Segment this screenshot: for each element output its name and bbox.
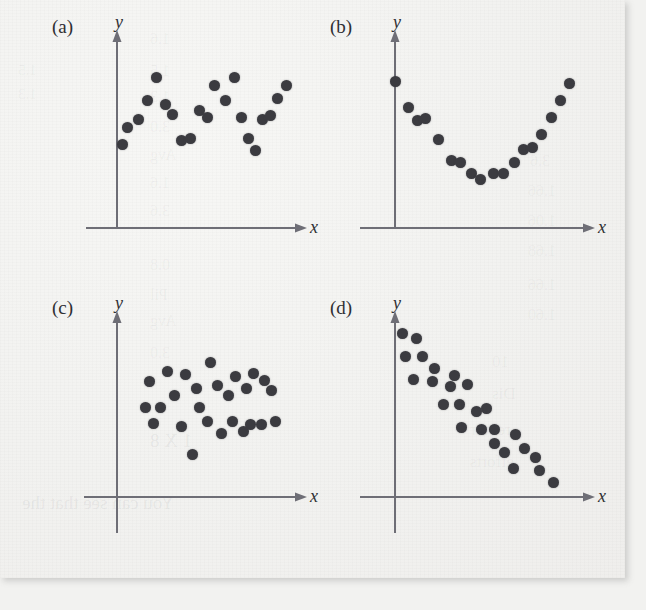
data-point (476, 424, 487, 435)
data-point (180, 369, 191, 380)
data-point (167, 109, 178, 120)
data-point (509, 157, 520, 168)
data-point (475, 174, 486, 185)
data-point (151, 72, 162, 83)
data-point (411, 333, 422, 344)
data-point (223, 390, 234, 401)
data-point (462, 379, 473, 390)
data-point (433, 134, 444, 145)
data-point (227, 416, 238, 427)
panel-c-dot-series (117, 325, 297, 497)
data-point (205, 357, 216, 368)
panel-b: (b) y x (330, 10, 610, 275)
data-point (498, 168, 509, 179)
data-point (420, 113, 431, 124)
data-point (281, 80, 292, 91)
data-point (220, 95, 231, 106)
data-point (155, 402, 166, 413)
data-point (169, 390, 180, 401)
panel-c-y-axis-arrowhead (113, 311, 122, 323)
data-point (144, 376, 155, 387)
data-point (194, 402, 205, 413)
data-point (427, 376, 438, 387)
data-point (209, 80, 220, 91)
panel-c: (c) y x (52, 293, 322, 553)
data-point (489, 424, 500, 435)
data-point (236, 112, 247, 123)
data-point (454, 399, 465, 410)
data-point (265, 110, 276, 121)
data-point (117, 139, 128, 150)
data-point (400, 351, 411, 362)
data-point (534, 465, 545, 476)
data-point (185, 133, 196, 144)
panel-b-x-axis-arrowhead (583, 224, 595, 233)
data-point (243, 133, 254, 144)
scanned-page: 1.51.31.61.51.33.0Avg1.63.60.8PilAvg3.01… (0, 0, 646, 610)
data-point (546, 112, 557, 123)
data-point (390, 76, 401, 87)
data-point (481, 403, 492, 414)
data-point (259, 375, 270, 386)
data-point (245, 419, 256, 430)
data-point (403, 102, 414, 113)
data-point (548, 477, 559, 488)
panel-d-dot-series (395, 319, 575, 497)
data-point (140, 402, 151, 413)
data-point (429, 363, 440, 374)
data-point (191, 383, 202, 394)
data-point (270, 416, 281, 427)
panel-d: (d) y x (330, 293, 610, 553)
data-point (142, 95, 153, 106)
data-point (241, 383, 252, 394)
data-point (122, 122, 133, 133)
data-point (489, 438, 500, 449)
data-point (202, 112, 213, 123)
data-point (530, 452, 541, 463)
data-point (250, 145, 261, 156)
data-point (471, 406, 482, 417)
data-point (445, 381, 456, 392)
data-point (272, 93, 283, 104)
data-point (455, 157, 466, 168)
data-point (202, 416, 213, 427)
data-point (438, 399, 449, 410)
data-point (229, 72, 240, 83)
data-point (256, 419, 267, 430)
data-point (519, 443, 530, 454)
data-point (499, 447, 510, 458)
data-point (212, 380, 223, 391)
data-point (266, 385, 277, 396)
data-point (133, 114, 144, 125)
data-point (216, 428, 227, 439)
data-point (230, 371, 241, 382)
data-point (555, 95, 566, 106)
data-point (397, 328, 408, 339)
data-point (536, 129, 547, 140)
data-point (248, 368, 259, 379)
data-point (527, 142, 538, 153)
data-point (456, 422, 467, 433)
panel-d-x-axis-arrowhead (583, 493, 595, 502)
data-point (160, 99, 171, 110)
data-point (508, 463, 519, 474)
data-point (564, 78, 575, 89)
data-point (449, 370, 460, 381)
data-point (417, 351, 428, 362)
panel-b-dot-series (392, 40, 577, 228)
data-point (162, 366, 173, 377)
data-point (408, 374, 419, 385)
panel-a-dot-series (117, 38, 297, 228)
data-point (176, 421, 187, 432)
data-point (148, 418, 159, 429)
data-point (187, 449, 198, 460)
data-point (510, 429, 521, 440)
panel-a: (a) y x (52, 10, 322, 275)
